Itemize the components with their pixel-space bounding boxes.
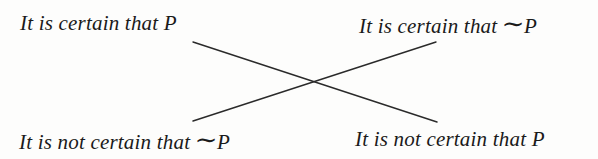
node-prefix: It is not certain that bbox=[19, 130, 196, 154]
node-not-certain-not-p: It is not certain that ∼P bbox=[19, 129, 230, 153]
node-certain-not-p: It is certain that ∼P bbox=[359, 13, 537, 37]
negation-tilde: ∼ bbox=[194, 128, 217, 152]
negation-tilde: ∼ bbox=[501, 12, 524, 36]
node-prefix: It is certain that bbox=[359, 14, 503, 38]
node-prefix: It is certain that bbox=[20, 11, 164, 35]
proposition-symbol: P bbox=[524, 14, 537, 38]
proposition-symbol: P bbox=[532, 127, 545, 151]
proposition-symbol: P bbox=[217, 130, 230, 154]
node-not-certain-p: It is not certain that P bbox=[355, 129, 545, 150]
diagram-canvas: It is certain that P It is certain that … bbox=[0, 0, 598, 159]
node-prefix: It is not certain that bbox=[355, 127, 532, 151]
proposition-symbol: P bbox=[164, 11, 177, 35]
node-certain-p: It is certain that P bbox=[20, 13, 177, 34]
